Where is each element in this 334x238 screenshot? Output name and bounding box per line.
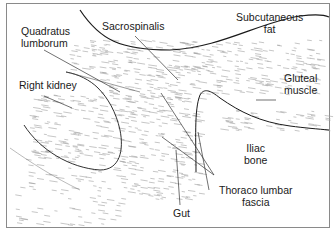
texture-dash [176, 68, 180, 69]
texture-dash [185, 176, 188, 177]
texture-dash [177, 142, 183, 143]
texture-dash [93, 108, 98, 109]
texture-dash [167, 46, 173, 47]
texture-dash [73, 146, 77, 147]
texture-dash [72, 63, 77, 64]
texture-dash [78, 105, 86, 106]
texture-dash [326, 120, 330, 121]
texture-dash [131, 189, 134, 190]
texture-dash [169, 104, 173, 105]
texture-dash [102, 145, 109, 146]
texture-dash [308, 40, 312, 41]
texture-dash [208, 71, 213, 72]
texture-dash [262, 78, 270, 79]
texture-dash [42, 105, 49, 106]
texture-dash [81, 96, 85, 97]
texture-dash [124, 71, 127, 72]
texture-dash [100, 73, 108, 74]
texture-dash [130, 161, 136, 162]
texture-dash [122, 182, 126, 183]
texture-dash [260, 58, 267, 59]
texture-dash [168, 98, 171, 99]
texture-dash [179, 147, 187, 148]
texture-dash [119, 203, 125, 204]
texture-dash [147, 75, 155, 76]
texture-dash [154, 89, 159, 90]
texture-dash [55, 144, 61, 145]
texture-dash [181, 137, 186, 138]
texture-dash [70, 208, 75, 209]
texture-dash [278, 45, 282, 46]
texture-dash [37, 224, 44, 225]
texture-dash [84, 222, 91, 223]
texture-dash [190, 84, 195, 85]
texture-dash [249, 59, 253, 60]
texture-dash [135, 163, 139, 164]
texture-dash [262, 75, 268, 76]
texture-dash [162, 197, 166, 198]
texture-dash [132, 121, 137, 122]
texture-dash [209, 60, 213, 61]
texture-dash [90, 66, 96, 67]
texture-dash [112, 76, 117, 77]
texture-dash [259, 68, 264, 69]
texture-dash [234, 42, 239, 43]
texture-dash [207, 62, 212, 63]
texture-dash [69, 225, 73, 226]
texture-dash [115, 110, 122, 111]
label-gluteal-muscle: Gluteal muscle [284, 72, 317, 96]
texture-dash [34, 108, 41, 109]
texture-dash [159, 136, 163, 137]
texture-dash [45, 123, 48, 124]
texture-dash [226, 43, 230, 44]
texture-dash [75, 46, 79, 47]
texture-dash [245, 118, 251, 119]
texture-dash [117, 205, 120, 206]
texture-dash [143, 111, 150, 112]
texture-dash [170, 85, 177, 86]
texture-dash [120, 109, 124, 110]
texture-dash [99, 148, 106, 149]
texture-dash [160, 160, 164, 161]
texture-dash [120, 139, 124, 140]
texture-dash [110, 96, 113, 97]
texture-dash [263, 51, 267, 52]
texture-dash [149, 65, 157, 66]
texture-dash [162, 153, 169, 154]
texture-dash [148, 90, 152, 91]
texture-dash [45, 215, 50, 216]
texture-dash [68, 161, 75, 162]
texture-dash [197, 120, 204, 121]
texture-dash [150, 149, 154, 150]
texture-dash [302, 69, 306, 70]
leader-fascia-c [198, 132, 209, 190]
texture-dash [310, 65, 315, 66]
texture-dash [61, 157, 68, 158]
texture-dash [180, 51, 185, 52]
texture-dash [158, 170, 165, 171]
texture-dash [76, 50, 80, 51]
texture-dash [158, 181, 164, 182]
texture-dash [100, 53, 108, 54]
texture-dash [132, 186, 137, 187]
texture-dash [99, 97, 103, 98]
texture-dash [84, 48, 89, 49]
texture-dash [76, 179, 83, 180]
texture-dash [120, 161, 125, 162]
texture-dash [105, 122, 111, 123]
texture-dash [16, 195, 22, 196]
texture-dash [154, 190, 160, 191]
texture-dash [186, 135, 193, 136]
label-line: Right kidney [19, 79, 77, 91]
texture-dash [292, 50, 296, 51]
texture-dash [33, 142, 37, 143]
texture-dash [271, 81, 278, 82]
texture-dash [184, 152, 191, 153]
texture-dash [325, 116, 333, 117]
texture-dash [90, 100, 96, 101]
texture-dash [92, 49, 97, 50]
leader-sacrospinalis [135, 36, 178, 80]
texture-dash [111, 219, 116, 220]
texture-dash [221, 129, 229, 130]
texture-dash [69, 131, 74, 132]
